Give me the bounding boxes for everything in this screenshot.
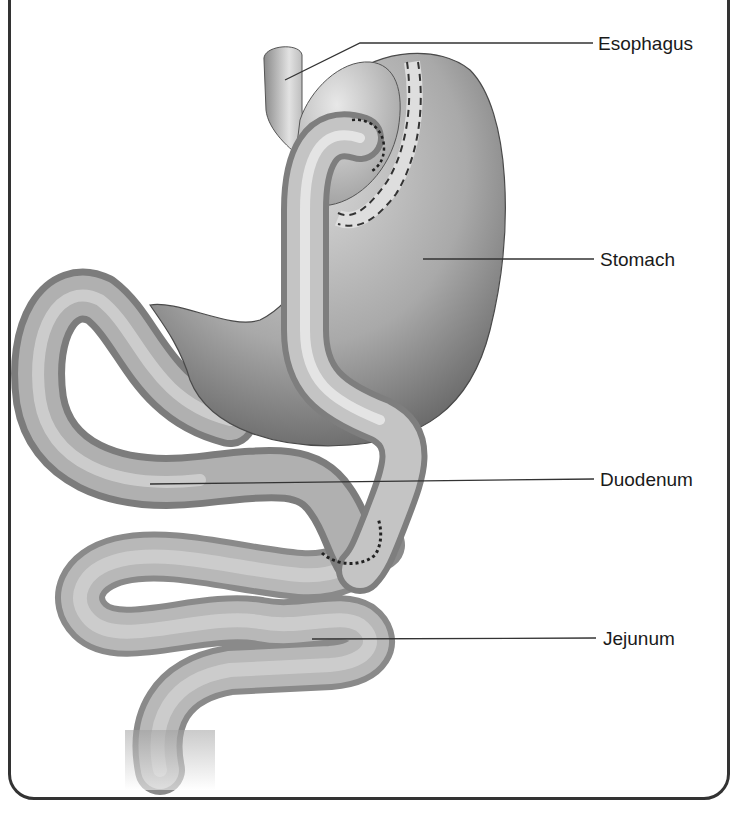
label-jejunum: Jejunum — [603, 629, 675, 648]
anatomy-illustration — [0, 0, 742, 815]
jejunum-loops — [80, 545, 380, 790]
label-stomach: Stomach — [600, 250, 675, 269]
label-esophagus: Esophagus — [598, 34, 693, 53]
label-duodenum: Duodenum — [600, 470, 693, 489]
